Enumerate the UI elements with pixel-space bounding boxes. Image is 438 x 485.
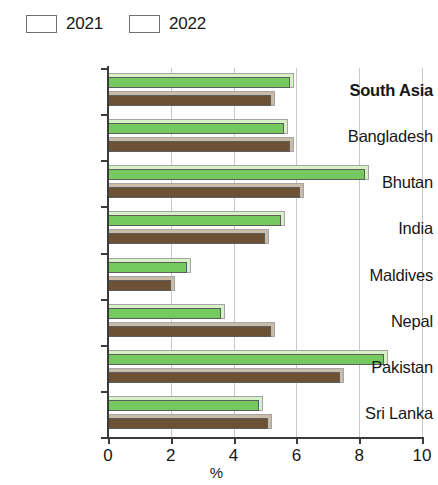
bar-front-face: [108, 418, 268, 429]
x-tick-label-6: 6: [276, 446, 316, 466]
bar-2022[interactable]: [108, 183, 304, 198]
bar-front-face: [108, 400, 259, 411]
bar-2022[interactable]: [108, 276, 175, 291]
bar-2022[interactable]: [108, 229, 269, 244]
bar-group: [108, 206, 422, 252]
bar-2022[interactable]: [108, 91, 275, 106]
bar-front-face: [108, 280, 171, 291]
legend-item-2021[interactable]: 2021: [26, 14, 103, 34]
bar-front-face: [108, 95, 271, 106]
x-axis-line: [107, 437, 423, 439]
bar-2021[interactable]: [108, 119, 288, 134]
bar-2021[interactable]: [108, 258, 191, 273]
legend-swatch-2022: [129, 15, 160, 33]
bar-2021[interactable]: [108, 165, 369, 180]
x-tick-label-0: 0: [88, 446, 128, 466]
bar-group: [108, 253, 422, 299]
bar-2021[interactable]: [108, 211, 285, 226]
bar-front-face: [108, 262, 187, 273]
gridline-10: [422, 68, 423, 437]
bar-2022[interactable]: [108, 137, 294, 152]
x-tick-label-2: 2: [151, 446, 191, 466]
bar-group: [108, 114, 422, 160]
bar-front-face: [108, 141, 290, 152]
bar-2022[interactable]: [108, 414, 272, 429]
bar-group: [108, 160, 422, 206]
bar-2022[interactable]: [108, 368, 344, 383]
bar-front-face: [108, 77, 290, 88]
x-tick-mark-10: [422, 437, 424, 444]
x-tick-mark-4: [234, 437, 236, 444]
legend-label-2021: 2021: [66, 14, 103, 34]
bar-front-face: [108, 215, 281, 226]
bar-front-face: [108, 187, 300, 198]
bar-front-face: [108, 308, 221, 319]
x-tick-mark-0: [108, 437, 110, 444]
bar-2021[interactable]: [108, 350, 388, 365]
bar-group: [108, 391, 422, 437]
chart-legend: 2021 2022: [26, 11, 206, 37]
x-tick-mark-6: [296, 437, 298, 444]
bar-front-face: [108, 123, 284, 134]
x-tick-label-10: 10: [402, 446, 438, 466]
legend-item-2022[interactable]: 2022: [129, 14, 206, 34]
legend-swatch-2021: [26, 15, 57, 33]
x-axis-title: %: [0, 464, 433, 481]
x-tick-label-8: 8: [339, 446, 379, 466]
x-tick-mark-8: [359, 437, 361, 444]
bar-2021[interactable]: [108, 396, 263, 411]
bar-2021[interactable]: [108, 73, 294, 88]
x-tick-mark-2: [171, 437, 173, 444]
bar-front-face: [108, 233, 265, 244]
legend-label-2022: 2022: [169, 14, 206, 34]
bar-front-face: [108, 326, 271, 337]
plot-area: [108, 68, 422, 437]
bar-group: [108, 68, 422, 114]
bar-front-face: [108, 169, 365, 180]
bar-group: [108, 299, 422, 345]
bar-2022[interactable]: [108, 322, 275, 337]
bar-2021[interactable]: [108, 304, 225, 319]
y-axis-line: [107, 66, 109, 439]
bar-group: [108, 345, 422, 391]
x-tick-label-4: 4: [214, 446, 254, 466]
bar-front-face: [108, 372, 340, 383]
bar-front-face: [108, 354, 384, 365]
